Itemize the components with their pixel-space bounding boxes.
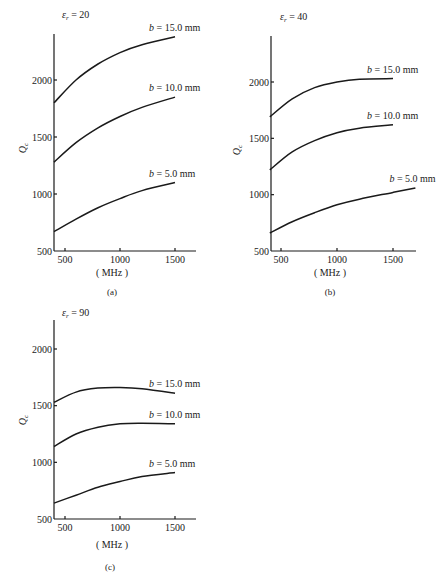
y-axis-label: Qc	[17, 142, 30, 153]
panel-caption: (b)	[325, 287, 336, 297]
curve-10.0mm	[54, 97, 175, 162]
curve-5.0mm	[54, 183, 175, 232]
x-axis-unit-label: ( MHz )	[96, 267, 128, 279]
x-tick-label: 1500	[165, 254, 185, 265]
y-tick-label: 1500	[249, 133, 269, 144]
x-tick-label: 500	[58, 254, 73, 265]
x-axis-unit-label: ( MHz )	[96, 539, 128, 551]
y-tick-label: 1000	[32, 457, 52, 468]
x-tick-label: 1500	[383, 254, 403, 265]
chart-title: εr = 40	[280, 11, 307, 24]
curve-label: b = 15.0 mm	[149, 22, 200, 33]
chart-panel-c: 50010001500200050010001500b = 15.0 mmb =…	[17, 307, 200, 572]
y-tick-label: 1500	[32, 400, 52, 411]
y-tick-label: 500	[37, 514, 52, 525]
panel-caption: (c)	[105, 562, 115, 572]
curve-label: b = 5.0 mm	[389, 173, 435, 184]
curve-label: b = 15.0 mm	[367, 64, 418, 75]
figure-canvas: 50010001500200050010001500b = 15.0 mmb =…	[0, 0, 447, 585]
x-tick-label: 500	[274, 254, 289, 265]
curve-15.0mm	[54, 387, 175, 402]
x-tick-label: 1000	[110, 522, 130, 533]
chart-title: εr = 20	[62, 9, 89, 22]
curve-label: b = 5.0 mm	[149, 168, 195, 179]
y-tick-label: 1000	[249, 189, 269, 200]
curve-5.0mm	[270, 188, 416, 233]
curve-label: b = 15.0 mm	[149, 378, 200, 389]
x-tick-label: 500	[58, 522, 73, 533]
y-tick-label: 2000	[32, 75, 52, 86]
panel-caption: (a)	[107, 287, 117, 297]
chart-title: εr = 90	[62, 307, 89, 320]
curve-label: b = 10.0 mm	[367, 110, 418, 121]
x-tick-label: 1000	[110, 254, 130, 265]
x-axis-unit-label: ( MHz )	[314, 267, 346, 279]
y-tick-label: 500	[254, 246, 269, 257]
y-tick-label: 2000	[249, 77, 269, 88]
curve-10.0mm	[54, 423, 175, 446]
y-tick-label: 1000	[32, 189, 52, 200]
y-axis-label: Qc	[231, 144, 244, 155]
chart-panel-b: 50010001500200050010001500b = 15.0 mmb =…	[231, 11, 436, 297]
x-tick-label: 1500	[165, 522, 185, 533]
curve-label: b = 10.0 mm	[149, 82, 200, 93]
y-tick-label: 2000	[32, 344, 52, 355]
x-tick-label: 1000	[327, 254, 347, 265]
curve-5.0mm	[54, 473, 175, 504]
y-tick-label: 500	[37, 246, 52, 257]
curve-10.0mm	[270, 125, 393, 170]
chart-panel-a: 50010001500200050010001500b = 15.0 mmb =…	[17, 9, 200, 297]
y-axis-label: Qc	[17, 414, 30, 425]
curve-label: b = 5.0 mm	[149, 458, 195, 469]
curve-label: b = 10.0 mm	[149, 409, 200, 420]
y-tick-label: 1500	[32, 132, 52, 143]
